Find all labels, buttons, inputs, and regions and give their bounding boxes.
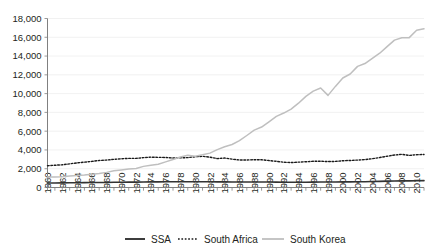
- line-chart: 02,0004,0006,0008,00010,00012,00014,0001…: [0, 0, 429, 252]
- legend-label: South Africa: [204, 234, 258, 245]
- gridlines: [48, 19, 425, 169]
- y-tick-label: 6,000: [18, 126, 42, 137]
- y-tick-label: 18,000: [12, 13, 41, 24]
- y-tick-label: 10,000: [12, 88, 41, 99]
- y-axis-tick-labels: 02,0004,0006,0008,00010,00012,00014,0001…: [12, 13, 41, 193]
- y-tick-label: 4,000: [18, 144, 42, 155]
- series-line: [48, 154, 425, 165]
- series-line: [48, 29, 425, 177]
- y-tick-label: 2,000: [18, 163, 42, 174]
- legend-label: South Korea: [290, 234, 346, 245]
- legend-label: SSA: [151, 234, 171, 245]
- axis-lines: [45, 19, 425, 191]
- y-tick-label: 14,000: [12, 50, 41, 61]
- y-tick-label: 16,000: [12, 32, 41, 43]
- y-tick-label: 12,000: [12, 69, 41, 80]
- chart-container: 02,0004,0006,0008,00010,00012,00014,0001…: [0, 0, 429, 252]
- data-series: [48, 29, 425, 183]
- y-tick-label: 0: [36, 182, 41, 193]
- y-tick-label: 8,000: [18, 107, 42, 118]
- chart-legend: SSASouth AfricaSouth Korea: [125, 234, 346, 245]
